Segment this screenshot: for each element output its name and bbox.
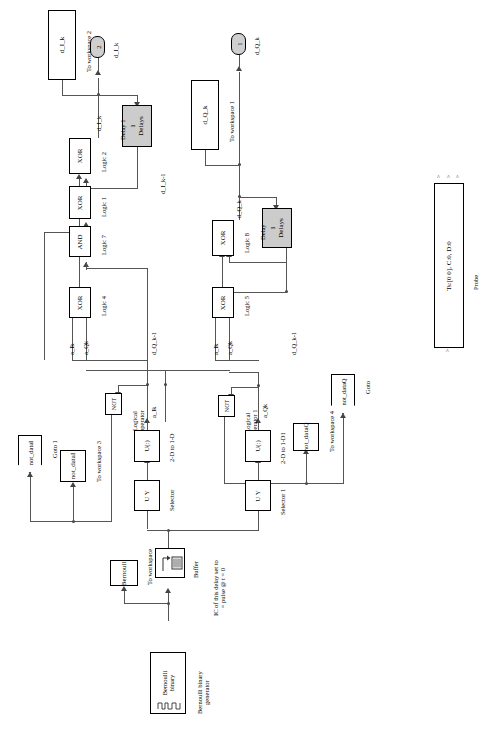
wire bbox=[73, 487, 74, 522]
signal-d-Q-k-minus-1-a: d_Q_k-1 bbox=[150, 332, 157, 355]
wire bbox=[224, 417, 225, 484]
block-label: not_dataI bbox=[69, 453, 77, 479]
wire bbox=[205, 150, 206, 166]
block-label: Bernoulli bbox=[120, 560, 128, 586]
block-buffer[interactable] bbox=[155, 548, 185, 578]
caption-goto-2: Goto bbox=[364, 381, 371, 394]
block-to-workspace-2[interactable]: d_I_k bbox=[48, 10, 76, 80]
block-bernoulli-generator[interactable]: Bernoulli binary bbox=[150, 652, 186, 714]
block-label: XOR bbox=[76, 149, 84, 164]
caption-selector-1: Selector bbox=[168, 490, 175, 511]
block-label: U(:) bbox=[254, 440, 262, 452]
goto-2[interactable]: not_dataQ bbox=[331, 374, 355, 414]
block-label: NOT bbox=[110, 398, 117, 410]
caption-goto-1: Goto 1 bbox=[51, 440, 58, 458]
wire bbox=[30, 477, 31, 522]
wire bbox=[258, 511, 259, 530]
block-logic-8[interactable]: XOR bbox=[212, 220, 234, 256]
signal-d-Q-k: d_Q_k bbox=[235, 200, 242, 218]
block-label: U(:) bbox=[143, 440, 151, 452]
wire bbox=[229, 262, 287, 263]
wire bbox=[147, 268, 148, 360]
junction-dot bbox=[164, 383, 167, 386]
outport-1[interactable]: 1 bbox=[231, 33, 246, 55]
wire bbox=[44, 232, 45, 360]
wire bbox=[231, 387, 258, 388]
block-logic-2[interactable]: XOR bbox=[69, 138, 91, 174]
block-reshape-1[interactable]: U(:) bbox=[134, 430, 160, 462]
signal-a-Ik-3: a_Ik bbox=[150, 406, 157, 418]
wire bbox=[98, 58, 99, 72]
wire bbox=[124, 603, 169, 604]
arrowhead-icon bbox=[165, 588, 171, 593]
wire bbox=[168, 530, 169, 548]
caption-delay-2: Delay bbox=[259, 224, 266, 240]
block-delay-1[interactable]: 1 Delays bbox=[122, 105, 152, 147]
outport-number: 2 bbox=[94, 45, 101, 48]
goto-1[interactable]: not_dataI bbox=[18, 435, 42, 473]
goto-label: not_dataQ bbox=[340, 379, 347, 406]
block-to-workspace-0[interactable]: Bernoulli bbox=[110, 560, 138, 586]
caption-logic-8: Logic 8 bbox=[243, 233, 250, 253]
block-selector-1[interactable]: U Y bbox=[134, 480, 160, 511]
block-not-2[interactable]: NOT bbox=[218, 395, 235, 417]
wire bbox=[147, 422, 148, 430]
caption-logic-4: Logic 4 bbox=[100, 296, 107, 316]
block-logic-1[interactable]: XOR bbox=[69, 186, 91, 219]
caption-bernoulli-generator: Bernoulli binary generator bbox=[196, 671, 211, 714]
wire bbox=[118, 385, 147, 386]
caption-logic-5: Logic 5 bbox=[243, 296, 250, 316]
block-delay-2[interactable]: 1 Delays bbox=[262, 208, 292, 248]
probe-port-marker: ^ bbox=[437, 174, 440, 180]
wire bbox=[165, 370, 230, 371]
caption-logic-2: Logic 2 bbox=[100, 152, 107, 172]
wire bbox=[286, 247, 287, 293]
block-probe[interactable]: Ts:[0 0], C:0, D:0 bbox=[434, 183, 464, 348]
block-logic-4[interactable]: XOR bbox=[69, 287, 91, 318]
block-not-1[interactable]: NOT bbox=[105, 393, 122, 415]
wire bbox=[229, 256, 230, 263]
wire bbox=[165, 370, 166, 422]
wire bbox=[258, 462, 259, 480]
caption-selector-2: Selector 1 bbox=[279, 489, 286, 515]
block-selector-2[interactable]: U Y bbox=[245, 480, 271, 511]
block-logic-5[interactable]: XOR bbox=[212, 287, 234, 318]
wire bbox=[111, 415, 112, 522]
block-to-workspace-1[interactable]: d_Q_k bbox=[191, 80, 219, 150]
wire bbox=[224, 483, 343, 484]
block-to-workspace-4[interactable]: not_dataQ bbox=[293, 423, 319, 451]
caption-reshape-2: 2-D to 1-D1 bbox=[279, 432, 286, 464]
block-logic-7[interactable]: AND bbox=[69, 226, 91, 257]
wire bbox=[215, 360, 259, 361]
signal-a-Ik-2: a_Ik bbox=[212, 343, 219, 355]
block-label: 1 Delays bbox=[269, 218, 285, 237]
caption-probe: Probe bbox=[472, 275, 479, 290]
outport-number: 1 bbox=[235, 42, 242, 45]
block-label: not_dataQ bbox=[302, 422, 310, 451]
wire bbox=[79, 256, 80, 288]
wire bbox=[62, 95, 99, 96]
wire bbox=[147, 511, 148, 529]
arrowhead-icon bbox=[70, 482, 76, 487]
block-reshape-2[interactable]: U(:) bbox=[245, 430, 271, 462]
signal-d-I-k: d_I_k bbox=[95, 116, 102, 131]
block-to-workspace-3[interactable]: not_dataI bbox=[60, 450, 86, 482]
signal-a-Qk-1: a_Qk bbox=[82, 341, 89, 355]
wire bbox=[86, 268, 148, 269]
block-label: XOR bbox=[219, 295, 227, 310]
wire bbox=[147, 530, 169, 531]
wire bbox=[222, 256, 223, 288]
block-label: d_I_k bbox=[58, 37, 66, 53]
wire bbox=[306, 454, 307, 484]
signal-a-Ik-1: a_Ik bbox=[68, 343, 75, 355]
wire bbox=[239, 197, 277, 198]
wire bbox=[86, 370, 166, 371]
block-label: Ts:[0 0], C:0, D:0 bbox=[445, 241, 453, 290]
probe-port-marker: ^ bbox=[447, 174, 450, 180]
wire bbox=[62, 80, 63, 96]
wire bbox=[168, 593, 169, 621]
outport-2[interactable]: 2 bbox=[90, 36, 105, 58]
signal-d-I-k-minus-1: d_I_k-1 bbox=[159, 173, 166, 194]
waveform-icon bbox=[151, 653, 187, 715]
wire bbox=[147, 462, 148, 480]
